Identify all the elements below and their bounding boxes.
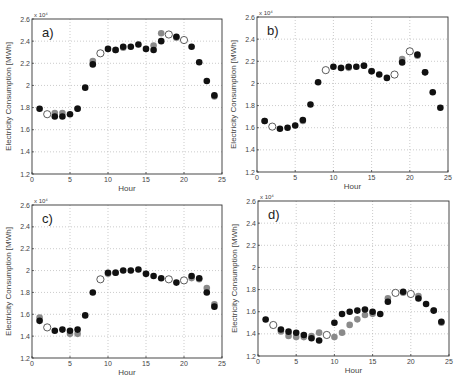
- data-point-black: [36, 105, 43, 112]
- data-point-open: [165, 31, 172, 38]
- y-tick-label: 1.6: [245, 124, 255, 131]
- y-tick-label: 2.4: [245, 36, 255, 43]
- data-point-black: [292, 122, 299, 129]
- data-point-open: [44, 111, 51, 118]
- data-point-black: [261, 118, 268, 125]
- x-tick-label: 15: [142, 360, 150, 367]
- data-point-black: [52, 113, 59, 120]
- data-point-black: [204, 78, 211, 85]
- y-tick-label: 2.2: [20, 245, 30, 252]
- x-tick-label: 15: [368, 174, 376, 181]
- x-tick-label: 25: [218, 360, 226, 367]
- panel-b: 05101520251.21.41.61.822.22.42.6x 10⁴b)H…: [229, 10, 452, 191]
- data-point-gray: [354, 316, 361, 323]
- y-tick-label: 2.6: [245, 14, 255, 21]
- data-point-black: [278, 326, 285, 333]
- data-point-black: [331, 319, 338, 326]
- axes-frame: [32, 19, 222, 174]
- x-tick-label: 15: [369, 358, 377, 365]
- panel-c: 05101520251.21.41.61.822.22.42.6x 10⁴c)H…: [4, 198, 226, 377]
- data-point-black: [330, 64, 337, 71]
- x-tick-label: 15: [142, 176, 150, 183]
- data-point-black: [368, 68, 375, 75]
- y-tick-label: 2.4: [246, 220, 256, 227]
- panel-a: 05101520251.21.41.61.822.22.42.6x 10⁴a)H…: [4, 12, 226, 193]
- data-point-black: [105, 46, 112, 53]
- panel-letter: d): [268, 207, 280, 222]
- data-point-black: [338, 65, 345, 72]
- x-tick-label: 25: [445, 358, 453, 365]
- data-point-open: [269, 123, 276, 130]
- data-point-black: [158, 275, 165, 282]
- data-point-black: [135, 41, 142, 48]
- data-point-black: [399, 59, 406, 66]
- y-tick-label: 1.4: [20, 148, 30, 155]
- x-tick-label: 5: [68, 360, 72, 367]
- data-point-open: [180, 277, 187, 284]
- data-point-open: [407, 290, 414, 297]
- data-point-black: [128, 43, 135, 50]
- data-point-black: [277, 126, 284, 133]
- data-point-black: [128, 267, 135, 274]
- data-point-black: [345, 64, 352, 71]
- x-tick-label: 5: [294, 358, 298, 365]
- y-tick-label: 2.6: [20, 16, 30, 23]
- x-tick-label: 20: [180, 176, 188, 183]
- data-point-open: [391, 71, 398, 78]
- data-point-black: [353, 64, 360, 71]
- data-point-open: [270, 321, 277, 328]
- y-axis-label: Electricity Consumption [MWh]: [230, 224, 239, 333]
- data-point-black: [376, 71, 383, 78]
- y-tick-label: 2.6: [246, 198, 256, 205]
- data-point-black: [400, 288, 407, 295]
- data-point-black: [120, 267, 127, 274]
- x-tick-label: 25: [218, 176, 226, 183]
- data-point-black: [285, 328, 292, 335]
- data-point-black: [74, 105, 81, 112]
- x-tick-label: 20: [406, 174, 414, 181]
- figure-2x2-scatter: 05101520251.21.41.61.822.22.42.6x 10⁴a)H…: [0, 0, 457, 381]
- y-tick-label: 1.2: [246, 353, 256, 360]
- data-point-black: [188, 43, 195, 50]
- y-tick-label: 2: [252, 264, 256, 271]
- y-tick-label: 2.4: [20, 223, 30, 230]
- data-point-black: [143, 46, 150, 53]
- data-point-open: [97, 50, 104, 57]
- y-tick-label: 2: [26, 267, 30, 274]
- data-point-black: [415, 295, 422, 302]
- data-point-black: [423, 301, 430, 308]
- data-point-black: [36, 318, 43, 325]
- data-point-black: [173, 279, 180, 286]
- y-tick-label: 1.8: [20, 104, 30, 111]
- x-tick-label: 10: [104, 176, 112, 183]
- x-axis-label: Hour: [118, 368, 136, 377]
- y-exponent-label: x 10⁴: [259, 10, 273, 16]
- data-point-open: [323, 331, 330, 338]
- data-point-black: [438, 318, 445, 325]
- data-point-black: [67, 111, 74, 118]
- x-axis-label: Hour: [344, 182, 362, 191]
- data-point-black: [339, 311, 346, 318]
- x-tick-label: 20: [180, 360, 188, 367]
- panel-letter: a): [42, 25, 54, 40]
- y-exponent-label: x 10⁴: [260, 194, 274, 200]
- x-tick-label: 10: [330, 174, 338, 181]
- x-tick-label: 5: [68, 176, 72, 183]
- data-point-black: [301, 332, 308, 339]
- data-point-black: [52, 327, 59, 334]
- y-tick-label: 1.6: [20, 311, 30, 318]
- y-tick-label: 1.2: [20, 171, 30, 178]
- data-point-black: [437, 104, 444, 111]
- data-point-black: [105, 269, 112, 276]
- x-tick-label: 0: [255, 174, 259, 181]
- data-point-black: [293, 329, 300, 336]
- x-tick-label: 10: [104, 360, 112, 367]
- data-point-black: [204, 289, 211, 296]
- data-point-open: [44, 324, 51, 331]
- data-point-open: [322, 67, 329, 74]
- data-point-black: [74, 326, 81, 333]
- data-point-black: [173, 33, 180, 40]
- y-tick-label: 1.8: [20, 289, 30, 296]
- x-axis-label: Hour: [345, 366, 363, 375]
- axes-frame: [32, 205, 222, 358]
